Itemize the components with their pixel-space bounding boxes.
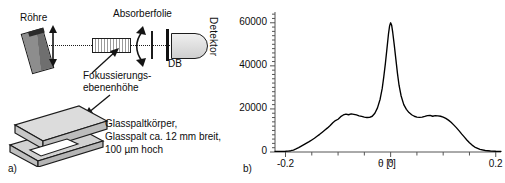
plot-axes bbox=[270, 12, 501, 157]
y-tick-label: 60000 bbox=[221, 16, 267, 27]
glass-slit-body-3d-icon bbox=[8, 95, 113, 167]
y-tick-label: 0 bbox=[221, 145, 267, 156]
double-arrow-icon bbox=[129, 24, 151, 68]
detector-label: Detektor bbox=[208, 17, 219, 56]
glass-body-line2: Glasspalt ca. 12 mm breit, bbox=[105, 131, 221, 143]
db-label: DB bbox=[168, 58, 182, 70]
tube-label: Röhre bbox=[20, 12, 47, 24]
panel-b-key: b) bbox=[243, 163, 252, 174]
panel-a-key: a) bbox=[8, 163, 17, 174]
x-axis-title: θ [°] bbox=[378, 158, 396, 169]
glass-body-line1: Glasspaltkörper, bbox=[105, 118, 177, 130]
x-tick-label: 0.2 bbox=[476, 158, 505, 169]
panel-a-schematic: Röhre Absorberfolie DB Detektor bbox=[0, 0, 253, 183]
y-tick-label: 40000 bbox=[221, 59, 267, 70]
absorber-foil-icon bbox=[151, 31, 153, 59]
y-tick-label: 20000 bbox=[221, 102, 267, 113]
intensity-angle-plot bbox=[253, 0, 505, 183]
db-aperture-icon bbox=[166, 29, 169, 61]
panel-b-chart: 0200004000060000 -0.200.2 θ [°] b) bbox=[253, 0, 505, 183]
x-tick-label: -0.2 bbox=[266, 158, 306, 169]
figure-root: Röhre Absorberfolie DB Detektor bbox=[0, 0, 505, 183]
detector-icon bbox=[171, 33, 208, 59]
focus-label-line1: Fokussierungs- bbox=[83, 70, 151, 82]
absorber-label: Absorberfolie bbox=[113, 8, 172, 20]
double-arrow-icon bbox=[44, 24, 64, 68]
intensity-curve bbox=[275, 23, 501, 152]
glass-body-line3: 100 µm hoch bbox=[105, 144, 163, 156]
